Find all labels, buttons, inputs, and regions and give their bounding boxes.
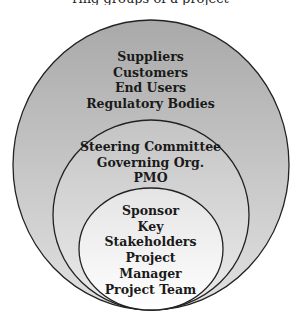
- outer-ring-labels: Suppliers Customers End Users Regulatory…: [0, 49, 301, 112]
- middle-label: Governing Org.: [0, 155, 301, 171]
- outer-label: Regulatory Bodies: [0, 96, 301, 112]
- inner-label: Manager: [0, 266, 301, 282]
- inner-label: Key: [0, 219, 301, 235]
- middle-label: Steering Committee: [0, 139, 301, 155]
- inner-label: Sponsor: [0, 203, 301, 219]
- outer-label: End Users: [0, 80, 301, 96]
- outer-label: Customers: [0, 65, 301, 81]
- inner-label: Stakeholders: [0, 234, 301, 250]
- outer-label: Suppliers: [0, 49, 301, 65]
- middle-label: PMO: [0, 170, 301, 186]
- middle-ring-labels: Steering Committee Governing Org. PMO: [0, 139, 301, 186]
- inner-ring-labels: Sponsor Key Stakeholders Project Manager…: [0, 203, 301, 297]
- inner-label: Project Team: [0, 282, 301, 298]
- inner-label: Project: [0, 250, 301, 266]
